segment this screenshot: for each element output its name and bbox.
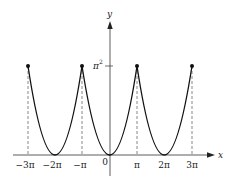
peak-point [80,64,84,68]
x-tick-label: 3π [186,160,198,170]
peak-point [135,64,139,68]
x-tick-label: π [134,160,140,170]
plot: y x π 2 −3π −2π −π 0 π 2π 3π [0,0,236,184]
x-tick-label: −2π [42,160,61,170]
peak-point [26,64,30,68]
y-axis-label: y [106,9,113,19]
x-tick-label: −3π [15,160,34,170]
x-axis-arrow-icon [207,152,215,157]
x-tick-label: 0 [102,157,108,167]
x-tick-label: −π [73,160,87,170]
y-axis-arrow-icon [107,21,112,29]
y-tick-label-superscript: 2 [99,58,103,65]
peak-point [190,64,194,68]
x-tick-label: 2π [158,160,170,170]
x-tick-labels: −3π −2π −π 0 π 2π 3π [15,157,197,170]
x-axis-label: x [218,150,223,160]
